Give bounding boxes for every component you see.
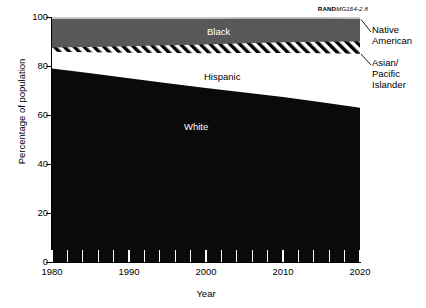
x-minor-tick-1982 [67, 250, 68, 262]
x-label-1990: 1990 [109, 267, 149, 277]
annotation-asian-line3: Islander [372, 79, 406, 90]
x-minor-tick-1994 [159, 250, 160, 262]
source-tag: RANDMG164-2.8 [318, 5, 368, 12]
plot-area [52, 17, 360, 262]
x-minor-tick-2004 [236, 250, 237, 262]
x-minor-tick-2002 [221, 250, 222, 262]
x-minor-tick-2018 [344, 250, 345, 262]
annotation-asian-line2: Pacific [372, 68, 406, 79]
source-brand: RAND [318, 5, 336, 12]
annotation-asian-line1: Asian/ [372, 57, 406, 68]
x-minor-tick-1992 [144, 250, 145, 262]
x-label-1980: 1980 [32, 267, 72, 277]
x-axis-line [51, 262, 361, 263]
x-minor-tick-1996 [175, 250, 176, 262]
x-minor-tick-2020 [359, 250, 360, 262]
annotation-native-american-line1: Native [372, 24, 412, 35]
annotation-asian-pacific-islander: Asian/ Pacific Islander [372, 57, 406, 90]
x-minor-tick-2000 [205, 250, 206, 262]
x-minor-tick-1990 [128, 250, 129, 262]
x-minor-tick-2016 [329, 250, 330, 262]
x-minor-tick-1984 [82, 250, 83, 262]
series-label-black: Black [207, 27, 230, 37]
stacked-area-svg [52, 17, 360, 262]
x-minor-tick-2010 [282, 250, 283, 262]
x-minor-tick-1988 [113, 250, 114, 262]
source-code: MG164-2.8 [336, 5, 368, 12]
x-minor-tick-1998 [190, 250, 191, 262]
y-axis-title: Percentage of population [16, 17, 27, 207]
x-minor-tick-2006 [252, 250, 253, 262]
x-axis-title: Year [0, 288, 412, 299]
x-label-2000: 2000 [186, 267, 226, 277]
x-minor-tick-2008 [267, 250, 268, 262]
series-label-hispanic: Hispanic [204, 72, 240, 82]
annotation-native-american-line2: American [372, 35, 412, 46]
chart-figure: RANDMG164-2.8 0 20 [0, 0, 426, 308]
x-minor-tick-1980 [51, 250, 52, 262]
x-minor-tick-1986 [98, 250, 99, 262]
x-minor-tick-2012 [298, 250, 299, 262]
annotation-native-american: Native American [372, 24, 412, 46]
x-minor-tick-2014 [313, 250, 314, 262]
y-axis-line [51, 17, 52, 263]
series-label-white: White [184, 122, 208, 132]
y-label-20: 20 [2, 208, 48, 218]
x-label-2020: 2020 [340, 267, 380, 277]
x-label-2010: 2010 [263, 267, 303, 277]
